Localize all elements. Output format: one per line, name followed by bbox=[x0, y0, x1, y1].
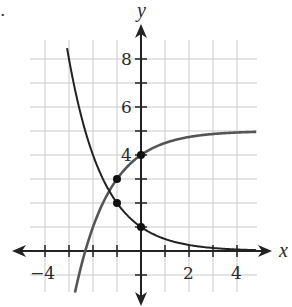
y-tick-label-4: 4 bbox=[121, 145, 132, 165]
x-axis-label: x bbox=[278, 239, 288, 261]
marked-point bbox=[113, 199, 121, 207]
coordinate-plane: . y x −4 2 4 8 6 4 bbox=[0, 0, 292, 307]
marked-point bbox=[113, 175, 121, 183]
curves bbox=[67, 48, 256, 292]
y-tick-label-8: 8 bbox=[121, 49, 132, 69]
y-axis-label: y bbox=[135, 0, 146, 22]
x-tick-label-2: 2 bbox=[183, 263, 194, 283]
marked-point bbox=[137, 223, 145, 231]
marked-point bbox=[137, 151, 145, 159]
x-tick-label-neg4: −4 bbox=[30, 263, 55, 283]
problem-bullet: . bbox=[0, 0, 5, 20]
graph-figure: . y x −4 2 4 8 6 4 bbox=[0, 0, 292, 307]
increasing-curve bbox=[75, 132, 256, 293]
x-tick-label-4: 4 bbox=[231, 263, 242, 283]
y-tick-label-6: 6 bbox=[121, 97, 132, 117]
grid-lines bbox=[30, 40, 257, 292]
